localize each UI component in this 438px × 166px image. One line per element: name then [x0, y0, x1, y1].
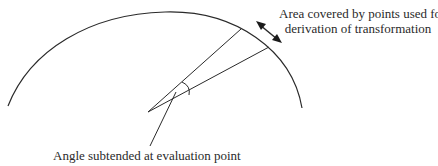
- angle-leader-line: [150, 92, 176, 146]
- lower-ray: [148, 47, 269, 112]
- area-label: Area covered by points used for derivati…: [279, 6, 437, 36]
- diagram-canvas: Area covered by points used for derivati…: [0, 0, 438, 166]
- area-label-line1: Area covered by points used for: [279, 6, 437, 21]
- boundary-arc: [8, 12, 302, 108]
- area-label-line2: derivation of transformation: [279, 21, 437, 36]
- upper-ray: [148, 29, 241, 112]
- angle-label: Angle subtended at evaluation point: [53, 148, 241, 163]
